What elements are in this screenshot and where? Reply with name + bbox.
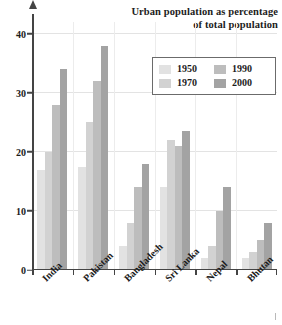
bar [127,223,135,270]
x-tick-mark [276,270,278,275]
legend-swatch-1970 [159,79,171,88]
legend-label-1970: 1970 [177,78,197,88]
bar [45,152,53,270]
legend-row: 1970 2000 [159,76,269,90]
y-tick-label: 20 [16,146,26,157]
legend-label-1950: 1950 [177,64,197,74]
legend-swatch-2000 [214,79,226,88]
bar [167,140,175,270]
legend-label-2000: 2000 [232,78,252,88]
bar [78,167,86,270]
vertical-gridline [73,22,74,270]
bar [101,46,109,270]
x-tick-mark [114,270,116,275]
bar-group [78,22,108,270]
y-tick-mark [27,92,32,94]
y-tick-label: 0 [21,265,26,276]
bar-group [37,22,67,270]
legend-item-2000: 2000 [214,78,269,88]
legend-swatch-1950 [159,65,171,74]
y-tick-label: 10 [16,205,26,216]
bar-group [119,22,149,270]
x-tick-mark [195,270,197,275]
bar [93,81,101,270]
bar [160,187,168,270]
legend-swatch-1990 [214,65,226,74]
x-tick-mark [32,270,34,275]
legend-row: 1950 1990 [159,62,269,76]
y-tick-mark [27,210,32,212]
y-tick-mark [27,33,32,35]
bar [37,170,45,270]
x-tick-mark [73,270,75,275]
bar [60,69,68,270]
chart-figure: Urban population as percentage of total … [0,0,282,325]
chart-title-line-1: Urban population as percentage [103,6,278,19]
y-tick-label: 30 [16,87,26,98]
y-tick-mark [27,151,32,153]
chart-legend: 1950 1990 1970 2000 [152,57,276,95]
legend-item-1970: 1970 [159,78,214,88]
y-axis-arrow-icon [29,0,37,9]
legend-item-1990: 1990 [214,64,269,74]
vertical-gridline [114,22,115,270]
bar [52,105,60,270]
bar [119,246,127,270]
x-tick-mark [236,270,238,275]
y-tick-label: 40 [16,28,26,39]
corner-mark [275,313,276,320]
bar [175,146,183,270]
x-tick-mark [155,270,157,275]
legend-item-1950: 1950 [159,64,214,74]
bar [223,187,231,270]
bar [86,122,94,270]
y-axis [32,14,34,270]
legend-label-1990: 1990 [232,64,252,74]
